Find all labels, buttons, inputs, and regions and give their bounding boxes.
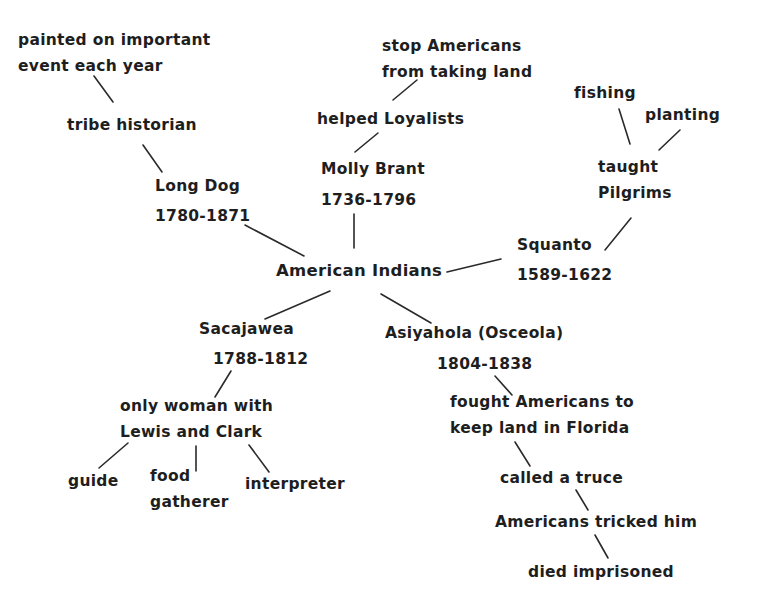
- node-label-line: gatherer: [150, 489, 229, 515]
- node-label-line: 1788-1812: [213, 346, 308, 372]
- link-american-indians-to-sacajawea: [265, 291, 330, 319]
- node-label-line: painted on important: [18, 27, 211, 53]
- link-called-truce-to-tricked: [576, 490, 588, 510]
- node-squanto: Squanto: [517, 232, 592, 258]
- node-label-line: 1736-1796: [321, 187, 416, 213]
- node-asiyahola: Asiyahola (Osceola): [385, 320, 563, 346]
- node-label-line: tribe historian: [67, 112, 197, 138]
- node-label-line: 1589-1622: [517, 262, 612, 288]
- link-taught-pilgrims-to-squanto: [605, 218, 631, 250]
- link-tribe-historian-to-long-dog: [143, 145, 162, 172]
- node-molly-brant: Molly Brant: [321, 156, 425, 182]
- node-label-line: Sacajawea: [199, 316, 294, 342]
- node-label-line: guide: [68, 468, 119, 494]
- link-only-woman-to-interpreter: [249, 445, 269, 472]
- node-long-dog-dates: 1780-1871: [155, 203, 250, 229]
- node-label-line: Molly Brant: [321, 156, 425, 182]
- node-taught-pilgrims: taughtPilgrims: [598, 154, 672, 206]
- node-label-line: taught: [598, 154, 672, 180]
- node-label-line: interpreter: [245, 471, 345, 497]
- node-label-line: 1804-1838: [437, 351, 532, 377]
- node-label-line: Americans tricked him: [495, 509, 697, 535]
- node-label-line: stop Americans: [382, 33, 532, 59]
- node-squanto-dates: 1589-1622: [517, 262, 612, 288]
- node-fishing: fishing: [574, 80, 636, 106]
- node-fought-americans: fought Americans tokeep land in Florida: [450, 389, 634, 441]
- center-node-american-indians: American Indians: [276, 258, 442, 284]
- node-stop-americans: stop Americansfrom taking land: [382, 33, 532, 85]
- node-planting: planting: [645, 102, 720, 128]
- node-died: died imprisoned: [528, 559, 674, 585]
- node-food-gatherer: foodgatherer: [150, 463, 229, 515]
- concept-map-canvas: American Indians painted on importanteve…: [0, 0, 760, 609]
- node-label-line: died imprisoned: [528, 559, 674, 585]
- node-asiyahola-dates: 1804-1838: [437, 351, 532, 377]
- node-label-line: planting: [645, 102, 720, 128]
- node-label-line: food: [150, 463, 229, 489]
- node-label-line: fishing: [574, 80, 636, 106]
- node-guide: guide: [68, 468, 119, 494]
- node-label-line: 1780-1871: [155, 203, 250, 229]
- node-label-line: keep land in Florida: [450, 415, 634, 441]
- node-label-line: from taking land: [382, 59, 532, 85]
- node-label-line: Lewis and Clark: [120, 419, 273, 445]
- link-helped-loyalists-to-molly-brant: [355, 133, 378, 152]
- node-painted: painted on importantevent each year: [18, 27, 211, 79]
- link-painted-to-tribe-historian: [94, 76, 113, 102]
- node-label-line: Squanto: [517, 232, 592, 258]
- node-label-line: only woman with: [120, 393, 273, 419]
- node-label-line: event each year: [18, 53, 211, 79]
- node-long-dog: Long Dog: [155, 173, 240, 199]
- node-label-line: called a truce: [500, 465, 623, 491]
- link-long-dog-dates-to-american-indians: [245, 225, 304, 256]
- node-called-truce: called a truce: [500, 465, 623, 491]
- link-fought-americans-to-called-truce: [515, 442, 530, 466]
- node-interpreter: interpreter: [245, 471, 345, 497]
- node-helped-loyalists: helped Loyalists: [317, 106, 464, 132]
- node-sacajawea-dates: 1788-1812: [213, 346, 308, 372]
- node-label-line: fought Americans to: [450, 389, 634, 415]
- link-american-indians-to-asiyahola: [381, 294, 431, 323]
- link-american-indians-to-squanto: [447, 259, 501, 272]
- node-tricked: Americans tricked him: [495, 509, 697, 535]
- node-label-line: Long Dog: [155, 173, 240, 199]
- link-only-woman-to-guide: [99, 443, 128, 468]
- node-label-line: Pilgrims: [598, 180, 672, 206]
- link-tricked-to-died: [595, 535, 608, 558]
- link-fishing-to-taught-pilgrims: [619, 109, 630, 144]
- link-planting-to-taught-pilgrims: [659, 130, 680, 150]
- node-label-line: helped Loyalists: [317, 106, 464, 132]
- node-only-woman: only woman withLewis and Clark: [120, 393, 273, 445]
- node-label-line: Asiyahola (Osceola): [385, 320, 563, 346]
- node-tribe-historian: tribe historian: [67, 112, 197, 138]
- node-sacajawea: Sacajawea: [199, 316, 294, 342]
- node-molly-brant-dates: 1736-1796: [321, 187, 416, 213]
